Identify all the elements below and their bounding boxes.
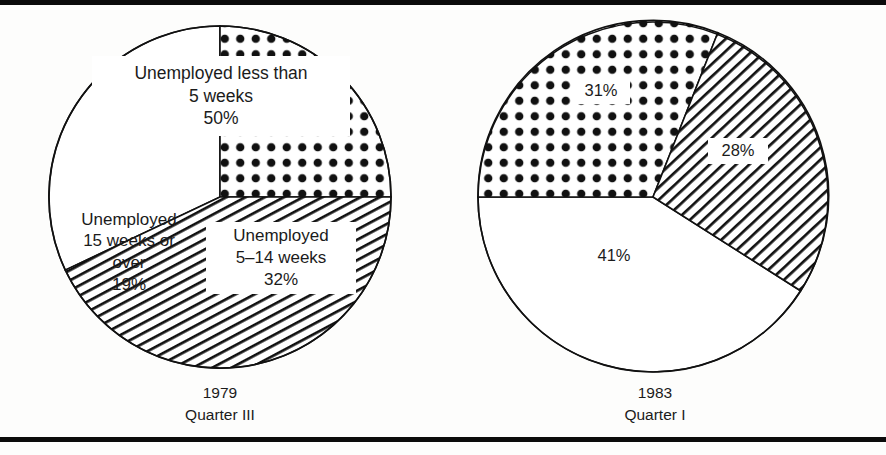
label-1979-5-14-weeks: Unemployed 5–14 weeks 32% <box>206 222 356 294</box>
label-1979-15-weeks-or-over: Unemployed 15 weeks or over 19% <box>58 206 200 298</box>
figure-root: Unemployed less than 5 weeks 50% Unemplo… <box>0 0 886 455</box>
label-1979-white-value: 19% <box>112 274 146 296</box>
caption-1979: 1979 Quarter III <box>130 382 310 427</box>
pie-chart-1983 <box>478 20 829 372</box>
label-1979-dotted-line2: 5 weeks <box>189 85 253 107</box>
caption-1983: 1983 Quarter I <box>565 382 745 427</box>
caption-1979-quarter: Quarter III <box>130 404 310 426</box>
caption-1983-quarter: Quarter I <box>565 404 745 426</box>
label-1983-white-value: 41% <box>584 243 644 269</box>
caption-1983-year: 1983 <box>565 382 745 404</box>
label-1979-hatched-line2: 5–14 weeks <box>236 247 327 269</box>
caption-1979-year: 1979 <box>130 382 310 404</box>
label-1979-dotted-line1: Unemployed less than <box>134 62 307 84</box>
label-1983-hatched-value: 28% <box>708 138 768 164</box>
label-1979-white-line2: 15 weeks or <box>83 230 175 252</box>
label-1979-white-line1: Unemployed <box>81 209 176 231</box>
label-1983-dotted-value: 31% <box>572 78 630 104</box>
label-1979-hatched-line1: Unemployed <box>233 225 328 247</box>
label-1979-dotted-value: 50% <box>203 107 238 129</box>
label-1979-hatched-value: 32% <box>264 269 298 291</box>
label-1979-less-than-5-weeks: Unemployed less than 5 weeks 50% <box>92 56 350 136</box>
label-1979-white-line3: over <box>112 252 145 274</box>
